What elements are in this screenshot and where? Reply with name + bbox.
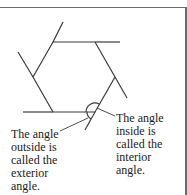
interior-angle-label: The angle inside is called the interior … <box>116 112 176 177</box>
extension-bottom-right <box>85 112 95 130</box>
extension-left <box>18 52 33 77</box>
leader-interior <box>97 108 115 116</box>
hexagon-shape <box>33 42 115 112</box>
interior-label-line: angle. <box>116 164 176 177</box>
exterior-label-line: angle. <box>11 180 71 193</box>
extension-right <box>115 77 127 98</box>
extension-top-left <box>53 22 63 42</box>
exterior-angle-label: The angle outside is called the exterior… <box>11 128 71 193</box>
